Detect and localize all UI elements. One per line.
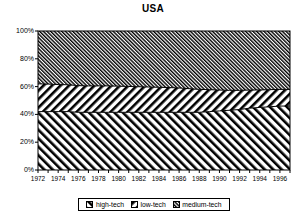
y-axis-tick-label: 60% <box>0 83 34 90</box>
legend-swatch-low-tech-icon <box>131 201 138 208</box>
area-series-medium-tech <box>38 31 290 90</box>
y-axis-tick-label: 0% <box>0 166 34 173</box>
y-axis-tick-label: 40% <box>0 110 34 117</box>
x-axis-tick-label: 1996 <box>268 175 292 182</box>
legend-swatch-medium-tech-icon <box>173 201 180 208</box>
chart-container: USA <box>0 0 306 218</box>
legend-label: high-tech <box>96 201 124 208</box>
y-axis-tick-label: 100% <box>0 27 34 34</box>
legend-item-medium-tech[interactable]: medium-tech <box>173 201 222 208</box>
y-axis-tick-label: 20% <box>0 138 34 145</box>
chart-plot-area <box>0 0 306 218</box>
legend-item-low-tech[interactable]: low-tech <box>131 201 166 208</box>
legend-label: low-tech <box>140 201 165 208</box>
legend-label: medium-tech <box>182 201 221 208</box>
chart-legend: high-techlow-techmedium-tech <box>78 198 230 211</box>
y-axis-tick-label: 80% <box>0 55 34 62</box>
legend-swatch-high-tech-icon <box>86 201 93 208</box>
legend-item-high-tech[interactable]: high-tech <box>86 201 123 208</box>
area-series-high-tech <box>38 106 290 170</box>
